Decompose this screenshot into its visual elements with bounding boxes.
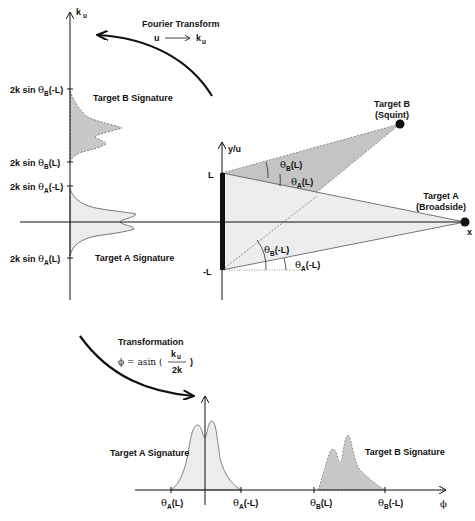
tick-label-a-L: 2k sin θA(L) — [10, 253, 60, 266]
fourier-to: ku — [196, 33, 206, 45]
tick-label-phi-b-minus-L: θB(-L) — [378, 497, 403, 510]
fourier-title: Fourier Transform — [142, 19, 220, 29]
tick-label-a-minus-L: 2k sin θA(-L) — [10, 181, 63, 194]
transformation-lhs: ϕ = asin ( — [118, 357, 162, 367]
ku-plot: k u 2k sin θB(-L) 2k sin θB(L) 2k sin θA… — [10, 7, 174, 300]
ku-axis-label-sub: u — [83, 12, 87, 19]
phi-plot: ϕ θA(L) θA(-L) θB(L) θB(-L) Target A Sig… — [110, 396, 447, 510]
target-a-name: Target A — [423, 191, 459, 201]
target-a-desc: (Broadside) — [416, 202, 466, 212]
diagram-canvas: k u 2k sin θB(-L) 2k sin θB(L) 2k sin θA… — [0, 0, 475, 521]
x-axis-label: x — [467, 227, 472, 237]
synthetic-aperture — [220, 173, 225, 270]
tick-label-phi-b-L: θB(L) — [310, 497, 332, 510]
transformation: Transformation ϕ = asin ( ku 2k ) — [80, 336, 193, 396]
y-u-axis-label: y/u — [228, 144, 241, 154]
fourier-transform: Fourier Transform u ku — [98, 19, 220, 96]
target-b-phi-signature — [318, 436, 385, 490]
tick-label-phi-a-L: θA(L) — [161, 497, 183, 510]
target-b-phi-label: Target B Signature — [365, 447, 445, 457]
transformation-rhs: ) — [190, 357, 193, 367]
fourier-arrow — [98, 35, 212, 96]
target-b-ku-label: Target B Signature — [93, 93, 173, 103]
target-b-name: Target B — [374, 99, 410, 109]
fourier-mapping: u — [154, 33, 160, 43]
transformation-num: ku — [171, 349, 181, 360]
tick-label-b-L: 2k sin θB(L) — [10, 157, 60, 170]
phi-axis-label: ϕ — [440, 498, 447, 509]
L-label: L — [208, 170, 214, 180]
target-a-ku-label: Target A Signature — [95, 253, 174, 263]
target-a-phi-label: Target A Signature — [110, 448, 189, 458]
transformation-title: Transformation — [118, 337, 184, 347]
tick-label-phi-a-minus-L: θA(-L) — [233, 497, 258, 510]
ku-axis-label: k — [76, 7, 82, 17]
angle-arc-thetaA-minus-L — [284, 258, 286, 270]
angle-label-thetaA-minus-L: θA(-L) — [295, 259, 320, 272]
transformation-den: 2k — [172, 365, 183, 375]
target-b-desc: (Squint) — [375, 110, 409, 120]
target-b-point — [396, 120, 405, 129]
minus-L-label: -L — [203, 267, 212, 277]
tick-label-b-minus-L: 2k sin θB(-L) — [10, 84, 63, 97]
target-a-point — [461, 218, 470, 227]
